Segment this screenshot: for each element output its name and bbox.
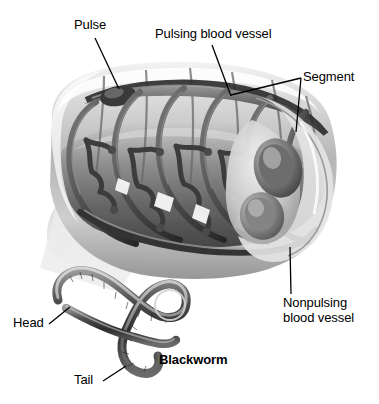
label-nonpulsing-blood-vessel-line1: Nonpulsing: [283, 296, 347, 311]
label-pulsing-blood-vessel: Pulsing blood vessel: [155, 27, 272, 42]
label-blackworm: Blackworm: [159, 353, 227, 368]
leader-pulse: [95, 38, 119, 89]
leader-tail: [103, 366, 126, 381]
leader-segment-a: [231, 78, 301, 95]
leader-lines: [0, 0, 379, 404]
label-segment: Segment: [303, 70, 354, 85]
leader-segment-b: [296, 78, 301, 132]
leader-head: [49, 307, 70, 324]
label-pulse: Pulse: [74, 18, 106, 33]
leader-nonpulsing-vessel: [290, 247, 291, 294]
label-nonpulsing-blood-vessel-line2: blood vessel: [283, 311, 354, 326]
figure-canvas: Pulse Pulsing blood vessel Segment Nonpu…: [0, 0, 379, 404]
label-head: Head: [13, 316, 44, 331]
leader-pulsing-vessel: [212, 45, 231, 96]
label-tail: Tail: [74, 373, 93, 388]
